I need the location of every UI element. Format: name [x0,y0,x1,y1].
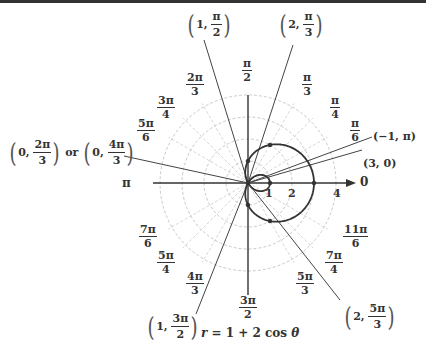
r-tick-1: 1 [265,188,273,199]
angle-label-7pi-4: 7π4 [325,250,343,275]
angle-label-4pi-3: 4π3 [186,271,204,296]
angle-label-5pi-4: 5π4 [157,250,175,275]
angle-label-3pi-4: 3π4 [157,95,175,120]
angle-label-pi-2: π2 [242,58,252,83]
angle-label-0: 0 [360,176,368,188]
r-tick-2: 2 [288,188,296,199]
point-label-3-0: (3, 0) [363,157,396,170]
axes [153,95,350,295]
polar-axis-arrow [346,179,356,187]
angle-label-pi-3: π3 [302,72,312,97]
angle-label-pi-4: π4 [330,95,340,120]
point-label-origin: (0, 2π3) or (0, 4π3) [8,138,136,167]
polar-graph-figure: 1 2 4 0 π π2 π3 π4 π6 2π3 3π4 5π6 7π6 5π… [0,0,426,359]
angle-label-3pi-2: 3π2 [239,295,257,320]
angle-label-2pi-3: 2π3 [186,72,204,97]
angle-label-5pi-6: 5π6 [137,118,155,143]
angle-label-11pi-6: 11π6 [343,224,368,249]
point-label-neg1-pi: (−1, π) [373,130,416,143]
angle-label-pi: π [122,177,131,189]
point-label-1-3pi-2: (1, 3π2) [146,312,199,341]
point-label-2-pi-3: (2, π3) [278,10,324,39]
point-label-2-5pi-3: (2, 5π3) [343,302,396,331]
angle-label-7pi-6: 7π6 [139,224,157,249]
equation-label: r = 1 + 2 cos θ [201,326,299,340]
angle-label-pi-6: π6 [350,118,360,143]
angle-label-5pi-3: 5π3 [296,271,314,296]
r-tick-4: 4 [333,188,341,199]
point-label-1-pi-2: (1, π2) [186,10,232,39]
